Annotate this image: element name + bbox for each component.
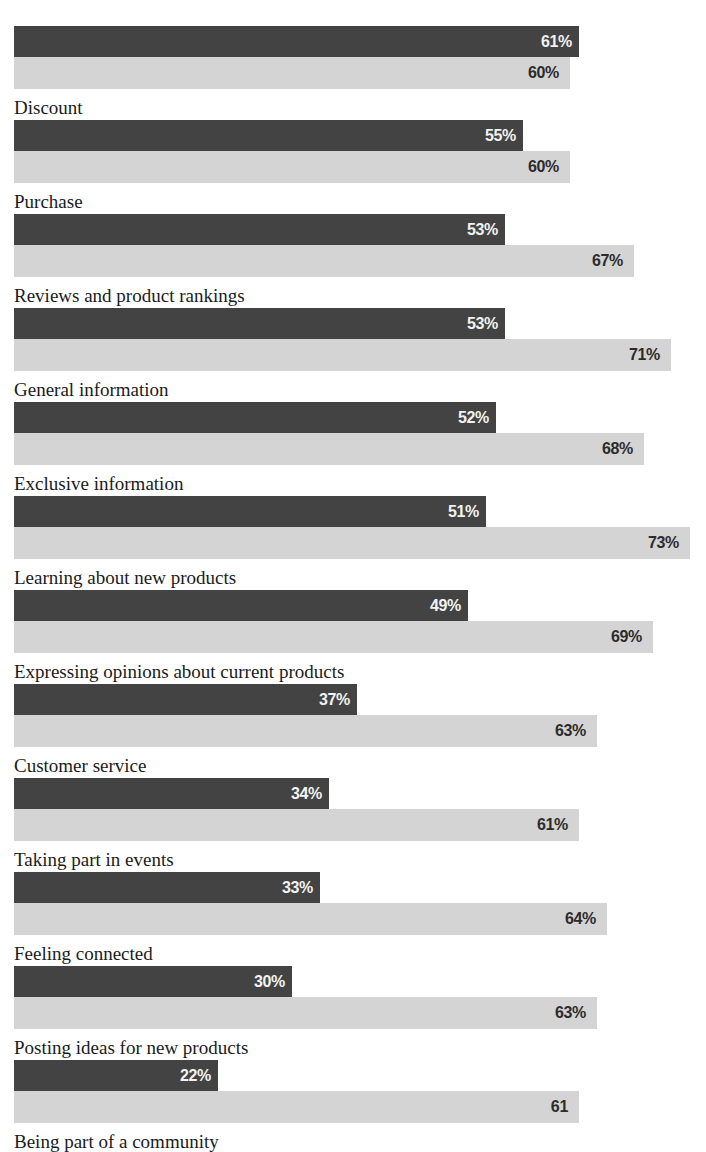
bar-series-dark: 53% — [14, 308, 505, 339]
bar-value-label: 22% — [180, 1068, 211, 1084]
bar-value-label: 53% — [467, 316, 498, 332]
bar-value-label: 33% — [282, 880, 313, 896]
bar-value-label: 61 — [551, 1099, 568, 1115]
bar-value-label: 53% — [467, 222, 498, 238]
bar-value-label: 69% — [611, 629, 642, 645]
bar-value-label: 49% — [430, 598, 461, 614]
bar-series-light: 69% — [14, 621, 653, 653]
bar-value-label: 30% — [254, 974, 285, 990]
bar-value-label: 37% — [319, 692, 350, 708]
bar-value-label: 55% — [485, 128, 516, 144]
category-label: General information — [14, 380, 169, 399]
bar-series-light: 63% — [14, 997, 597, 1029]
bar-series-dark: 53% — [14, 214, 505, 245]
bar-series-dark: 49% — [14, 590, 468, 621]
bar-series-light: 71% — [14, 339, 671, 371]
clipped-header-remnant — [60, 0, 320, 6]
category-label: Exclusive information — [14, 474, 183, 493]
bar-series-light: 61 — [14, 1091, 579, 1123]
bar-value-label: 52% — [458, 410, 489, 426]
bar-value-label: 63% — [555, 723, 586, 739]
bar-series-dark: 37% — [14, 684, 357, 715]
bar-series-dark: 33% — [14, 872, 320, 903]
bar-series-dark: 34% — [14, 778, 329, 809]
category-label: Discount — [14, 98, 83, 117]
bar-series-light: 63% — [14, 715, 597, 747]
bar-value-label: 68% — [602, 441, 633, 457]
bar-series-dark: 55% — [14, 120, 523, 151]
bar-series-light: 73% — [14, 527, 690, 559]
bar-series-dark: 51% — [14, 496, 486, 527]
bar-value-label: 34% — [291, 786, 322, 802]
bar-value-label: 73% — [648, 535, 679, 551]
bar-series-dark: 22% — [14, 1060, 218, 1091]
bar-value-label: 60% — [528, 159, 559, 175]
bar-series-light: 64% — [14, 903, 607, 935]
bar-series-dark: 30% — [14, 966, 292, 997]
bar-series-light: 60% — [14, 57, 570, 89]
category-label: Learning about new products — [14, 568, 236, 587]
bar-series-light: 61% — [14, 809, 579, 841]
bar-series-dark: 52% — [14, 402, 496, 433]
bar-series-light: 68% — [14, 433, 644, 465]
category-label: Taking part in events — [14, 850, 174, 869]
category-label: Reviews and product rankings — [14, 286, 245, 305]
category-label: Feeling connected — [14, 944, 153, 963]
category-label: Posting ideas for new products — [14, 1038, 248, 1057]
bar-series-light: 60% — [14, 151, 570, 183]
bar-series-dark: 61% — [14, 26, 579, 57]
bar-value-label: 63% — [555, 1005, 586, 1021]
bar-value-label: 71% — [629, 347, 660, 363]
bar-series-light: 67% — [14, 245, 634, 277]
bar-value-label: 64% — [565, 911, 596, 927]
bar-value-label: 51% — [448, 504, 479, 520]
category-label: Being part of a community — [14, 1132, 219, 1151]
category-label: Purchase — [14, 192, 83, 211]
bar-value-label: 61% — [541, 34, 572, 50]
category-label: Expressing opinions about current produc… — [14, 662, 344, 681]
bar-value-label: 61% — [537, 817, 568, 833]
bar-value-label: 67% — [592, 253, 623, 269]
bar-value-label: 60% — [528, 65, 559, 81]
category-label: Customer service — [14, 756, 146, 775]
